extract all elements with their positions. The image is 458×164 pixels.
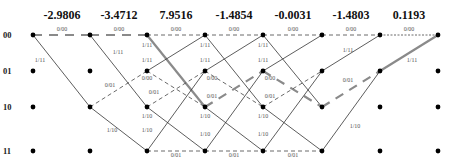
edge-label: 0/00: [207, 75, 218, 81]
trellis-edge: [380, 35, 438, 71]
trellis-node-11-t7: [436, 149, 441, 154]
trellis-node-10-t1: [88, 105, 93, 110]
trellis-diagram: 0/001/110/001/110/011/100/001/111/110/00…: [0, 0, 458, 164]
branch-metric-3: 7.9516: [160, 8, 193, 23]
trellis-node-00-t4: [261, 33, 266, 38]
trellis-edge: [147, 35, 205, 107]
state-label-01: 01: [3, 66, 12, 76]
trellis-node-00-t7: [436, 33, 441, 38]
trellis-node-01-t5: [320, 69, 325, 74]
edge-label: 0/01: [105, 82, 116, 88]
trellis-node-00-t5: [320, 33, 325, 38]
trellis-node-10-t3: [203, 105, 208, 110]
edge-label: 0/01: [343, 77, 354, 83]
edge-label: 1/10: [258, 113, 269, 119]
edge-label: 1/11: [407, 57, 417, 63]
edge-label: 1/10: [107, 127, 118, 133]
trellis-node-01-t7: [436, 69, 441, 74]
edge-label: 0/01: [171, 152, 182, 158]
edge-label: 0/01: [265, 93, 276, 99]
trellis-node-11-t4: [261, 149, 266, 154]
trellis-node-11-t1: [88, 149, 93, 154]
trellis-node-00-t1: [88, 33, 93, 38]
trellis-node-11-t6: [378, 149, 383, 154]
trellis-node-00-t6: [378, 33, 383, 38]
trellis-node-10-t2: [145, 105, 150, 110]
trellis-edge: [90, 71, 147, 107]
trellis-edge: [263, 71, 322, 151]
trellis-node-00-t3: [203, 33, 208, 38]
trellis-node-01-t6: [378, 69, 383, 74]
edge-label: 1/11: [200, 57, 210, 63]
edge-label: 1/11: [343, 47, 353, 53]
trellis-edge: [147, 107, 205, 151]
trellis-node-11-t3: [203, 149, 208, 154]
trellis-node-01-t3: [203, 69, 208, 74]
edge-label: 0/00: [288, 26, 299, 32]
edge-label: 0/00: [114, 26, 125, 32]
trellis-node-11-t5: [320, 149, 325, 154]
trellis-node-10-t0: [31, 105, 36, 110]
edge-label: 1/10: [258, 131, 269, 137]
trellis-edge: [90, 35, 147, 107]
trellis-node-01-t1: [88, 69, 93, 74]
trellis-edge: [205, 71, 263, 151]
trellis-edge: [205, 35, 263, 71]
edge-label: 1/11: [142, 57, 152, 63]
edge-label: 1/11: [113, 49, 123, 55]
edge-label: 1/10: [350, 123, 361, 129]
trellis-node-00-t0: [31, 33, 36, 38]
trellis-edge: [322, 35, 380, 71]
edge-label: 1/11: [258, 42, 268, 48]
edge-label: 1/10: [142, 127, 153, 133]
edge-label: 0/00: [404, 26, 415, 32]
trellis-edge: [90, 107, 147, 151]
edge-label: 0/00: [171, 26, 182, 32]
edge-label: 1/10: [142, 113, 153, 119]
trellis-node-10-t4: [261, 105, 266, 110]
edge-label: 0/01: [149, 89, 160, 95]
edge-label: 1/11: [200, 42, 210, 48]
edge-label: 0/00: [57, 26, 68, 32]
edge-label: 1/11: [142, 42, 152, 48]
trellis-node-10-t6: [378, 105, 383, 110]
branch-metric-5: -0.0031: [275, 8, 312, 23]
branch-metric-4: -1.4854: [216, 8, 253, 23]
edge-label: 0/01: [229, 152, 240, 158]
edge-label: 1/11: [258, 57, 268, 63]
state-label-10: 10: [3, 102, 12, 112]
trellis-node-10-t7: [436, 105, 441, 110]
trellis-edge: [147, 71, 205, 151]
edge-label: 0/00: [346, 26, 357, 32]
state-label-11: 11: [3, 146, 11, 156]
edge-label: 0/00: [265, 75, 276, 81]
edge-label: 0/00: [229, 26, 240, 32]
trellis-edge: [33, 35, 90, 107]
branch-metric-7: 0.1193: [393, 8, 425, 23]
trellis-node-00-t2: [145, 33, 150, 38]
state-label-00: 00: [3, 30, 12, 40]
trellis-node-11-t2: [145, 149, 150, 154]
trellis-edge: [147, 35, 205, 71]
trellis-edge: [263, 107, 322, 151]
trellis-graph: 0/001/110/001/110/011/100/001/111/110/00…: [0, 0, 458, 164]
edge-label: 1/10: [200, 131, 211, 137]
trellis-node-01-t2: [145, 69, 150, 74]
trellis-edge: [322, 71, 380, 151]
trellis-node-01-t4: [261, 69, 266, 74]
trellis-edge: [263, 35, 322, 71]
edge-label: 0/00: [142, 75, 153, 81]
branch-metric-2: -3.4712: [101, 8, 138, 23]
edge-label: 0/01: [207, 93, 218, 99]
trellis-node-10-t5: [320, 105, 325, 110]
branch-metric-1: -2.9806: [44, 8, 81, 23]
edge-label: 0/01: [288, 152, 299, 158]
edge-label: 1/10: [200, 113, 211, 119]
trellis-node-01-t0: [31, 69, 36, 74]
trellis-edge: [205, 107, 263, 151]
branch-metric-6: -1.4803: [333, 8, 370, 23]
trellis-node-11-t0: [31, 149, 36, 154]
edge-label: 1/11: [35, 57, 45, 63]
